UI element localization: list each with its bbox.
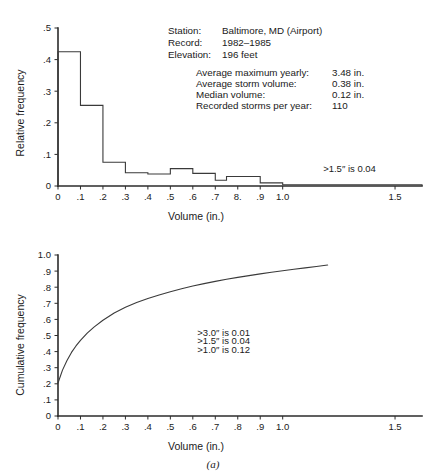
cumulative-frequency-ogive: 0.1.2.3.4.5.6.7.8.91.0 0.1.2.3.4.5.6.7.8… xyxy=(14,249,422,452)
histogram-annotations: >1.5″ is 0.04 xyxy=(323,163,376,174)
histogram-y-ticks: 0.1.2.3.4.5 xyxy=(43,22,58,191)
histogram-x-axis-label: Volume (in.) xyxy=(168,210,224,222)
x-tick-label: 1.5 xyxy=(388,191,401,202)
figure-container: Station: Baltimore, MD (Airport) Record:… xyxy=(0,0,437,475)
ogive-y-ticks: 0.1.2.3.4.5.6.7.8.91.0 xyxy=(38,249,58,421)
y-tick-label: .9 xyxy=(43,266,51,277)
elevation-label: Elevation: xyxy=(168,49,211,60)
y-tick-label: .5 xyxy=(43,22,51,33)
stat-value-2: 0.12 in. xyxy=(332,89,364,100)
y-tick-label: .3 xyxy=(43,86,51,97)
x-tick-label: .1 xyxy=(77,421,85,432)
ogive-x-ticks: 0.1.2.3.4.5.6.7.8.91.01.5 xyxy=(55,416,401,432)
ogive-annotations: >3.0″ is 0.01>1.5″ is 0.04>1.0″ is 0.12 xyxy=(197,327,250,356)
x-tick-label: .7 xyxy=(211,191,219,202)
y-tick-label: 1.0 xyxy=(38,249,51,260)
stat-label-0: Average maximum yearly: xyxy=(196,67,309,78)
x-tick-label: 0 xyxy=(55,421,60,432)
stat-label-1: Average storm volume: xyxy=(196,78,297,89)
histogram-y-axis-label: Relative frequency xyxy=(14,69,26,157)
x-tick-label: .3 xyxy=(121,421,129,432)
ogive-curve-path xyxy=(58,265,328,383)
storm-volume-frequency-figure: Station: Baltimore, MD (Airport) Record:… xyxy=(0,0,437,475)
x-tick-label: .2 xyxy=(99,421,107,432)
x-tick-label: 1.0 xyxy=(276,421,289,432)
y-tick-label: .2 xyxy=(43,117,51,128)
chart-annotation: >1.5″ is 0.04 xyxy=(323,163,376,174)
y-tick-label: .1 xyxy=(43,394,51,405)
x-tick-label: .9 xyxy=(256,421,264,432)
x-tick-label: .9 xyxy=(256,191,264,202)
x-tick-label: .6 xyxy=(189,191,197,202)
x-tick-label: .2 xyxy=(99,191,107,202)
y-tick-label: .7 xyxy=(43,298,51,309)
stat-label-3: Recorded storms per year: xyxy=(196,100,312,111)
x-tick-label: .5 xyxy=(166,421,174,432)
x-tick-label: .4 xyxy=(144,191,152,202)
figure-caption: (a) xyxy=(207,458,220,471)
histogram-x-ticks: 0.1.2.3.4.5.6.78..91.01.5 xyxy=(55,186,401,202)
station-info-block: Station: Baltimore, MD (Airport) Record:… xyxy=(168,25,322,60)
y-tick-label: .4 xyxy=(43,346,51,357)
summary-statistics-block: Average maximum yearly: 3.48 in. Average… xyxy=(196,67,364,111)
y-tick-label: 0 xyxy=(46,410,51,421)
station-label: Station: xyxy=(168,25,201,36)
chart-annotation: >1.0″ is 0.12 xyxy=(197,344,250,355)
x-tick-label: .3 xyxy=(121,191,129,202)
x-tick-label: .5 xyxy=(166,191,174,202)
x-tick-label: 8. xyxy=(234,191,242,202)
stat-value-3: 110 xyxy=(332,100,348,111)
y-tick-label: .8 xyxy=(43,282,51,293)
elevation-value: 196 feet xyxy=(222,49,258,60)
relative-frequency-histogram: 0.1.2.3.4.5 0.1.2.3.4.5.6.78..91.01.5 >1… xyxy=(14,22,422,222)
record-label: Record: xyxy=(168,37,202,48)
ogive-x-axis-label: Volume (in.) xyxy=(168,440,224,452)
y-tick-label: .6 xyxy=(43,314,51,325)
x-tick-label: .7 xyxy=(211,421,219,432)
x-tick-label: .4 xyxy=(144,421,152,432)
x-tick-label: .6 xyxy=(189,421,197,432)
station-value: Baltimore, MD (Airport) xyxy=(222,25,322,36)
x-tick-label: 1.5 xyxy=(388,421,401,432)
y-tick-label: 0 xyxy=(46,180,51,191)
y-tick-label: .1 xyxy=(43,149,51,160)
x-tick-label: 1.0 xyxy=(276,191,289,202)
y-tick-label: .5 xyxy=(43,330,51,341)
stat-value-1: 0.38 in. xyxy=(332,78,364,89)
x-tick-label: .8 xyxy=(234,421,242,432)
ogive-y-axis-label: Cumulative frequency xyxy=(14,293,26,395)
stat-label-2: Median volume: xyxy=(196,89,265,100)
y-tick-label: .3 xyxy=(43,362,51,373)
y-tick-label: .4 xyxy=(43,54,51,65)
x-tick-label: .1 xyxy=(77,191,85,202)
stat-value-0: 3.48 in. xyxy=(332,67,364,78)
record-value: 1982–1985 xyxy=(222,37,272,48)
y-tick-label: .2 xyxy=(43,378,51,389)
x-tick-label: 0 xyxy=(55,191,60,202)
